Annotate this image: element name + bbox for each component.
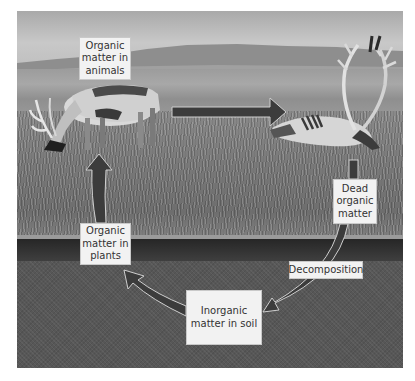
- grazing-caribou-figure: [30, 85, 160, 152]
- arrow-plants-to-animals: [86, 154, 112, 223]
- label-organic-matter-in-plants: Organic matter in plants: [80, 223, 131, 265]
- arrow-inorganic-to-plants: [124, 270, 186, 316]
- label-organic-matter-in-animals: Organic matter in animals: [79, 37, 131, 80]
- label-dead-organic-matter: Dead organic matter: [333, 179, 377, 224]
- label-inorganic-matter-in-soil: Inorganic matter in soil: [186, 290, 262, 345]
- arrow-animals-to-dead: [172, 98, 286, 126]
- label-decomposition: Decomposition: [289, 261, 363, 279]
- dead-caribou-figure: [270, 36, 396, 150]
